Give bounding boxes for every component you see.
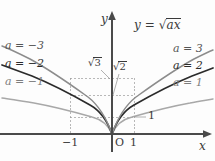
equation-title-radicand: ax	[166, 18, 182, 31]
series-label-a-minus-3: a = −3	[5, 40, 44, 51]
sqrt-two-radical: √2	[113, 61, 127, 72]
origin-label: O	[115, 137, 124, 148]
equation-title: y=√ax	[134, 18, 181, 31]
x-tick-label-plus-one: 1	[130, 137, 137, 148]
y-axis-label: y	[101, 13, 108, 25]
dashed-guides	[70, 78, 134, 134]
series-label-a-plus-1: a = 1	[173, 77, 203, 88]
series-label-a-plus-2: a = 2	[173, 60, 203, 71]
series-label-a-plus-3: a = 3	[173, 43, 203, 54]
curve-a-plus-1	[112, 99, 213, 134]
annotation-y-one: 1	[148, 110, 155, 121]
y-axis-arrowhead	[108, 11, 116, 20]
series-label-a-minus-2: a = −2	[5, 58, 44, 69]
sqrt-three-radical: √3	[88, 57, 102, 68]
sqrt-family-figure: y x y=√ax a = −3 a = −2 a = −1 a = 3 a =…	[0, 0, 215, 161]
annotation-sqrt-three: √3	[88, 57, 102, 68]
sqrt-three-radicand: 3	[93, 57, 101, 68]
annotation-sqrt-two: √2	[113, 61, 127, 72]
x-axis-arrowhead	[203, 130, 212, 138]
x-axis-label: x	[199, 140, 206, 152]
equation-title-y: y	[134, 18, 141, 32]
x-tick-label-minus-one: −1	[62, 137, 78, 148]
series-label-a-minus-1: a = −1	[5, 76, 44, 87]
equation-title-radical: √ax	[159, 18, 182, 31]
leader-sqrt2	[113, 74, 119, 95]
sqrt-two-radicand: 2	[118, 61, 126, 72]
equation-title-equals: =	[141, 18, 159, 32]
